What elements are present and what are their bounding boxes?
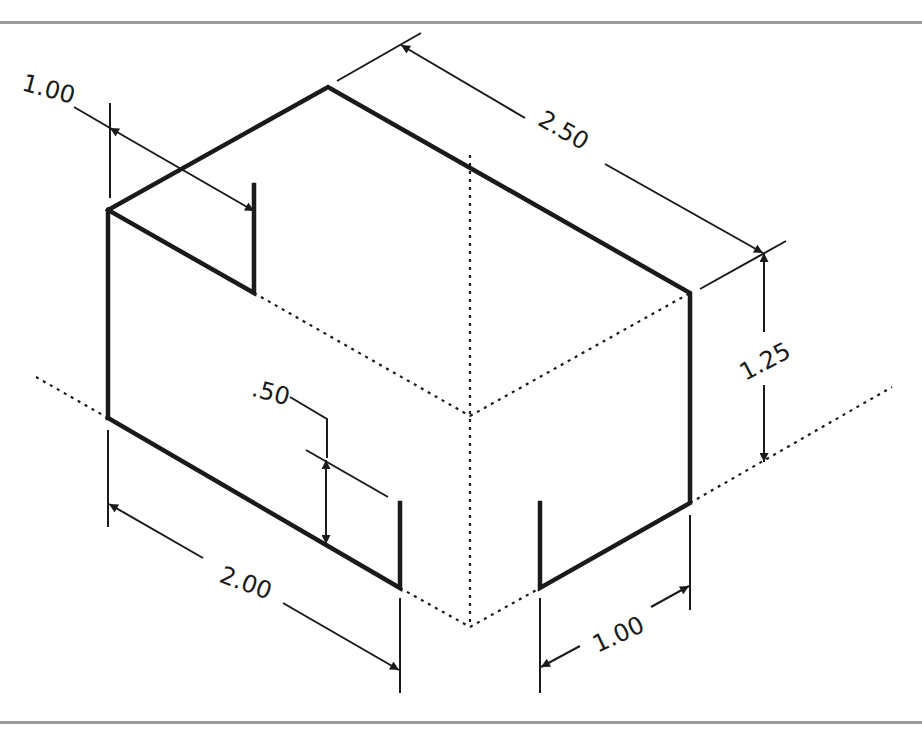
dimension-length: 2.50 <box>401 45 763 253</box>
dimension-label-notch-depth: 1.00 <box>19 69 78 110</box>
dimension-height: 1.25 <box>735 253 795 462</box>
dimension-notch-height: .50 <box>249 374 327 544</box>
dimension-label-height: 1.25 <box>735 337 795 387</box>
dimension-label-notch-height: .50 <box>249 374 293 411</box>
dimension-label-length: 2.50 <box>533 105 593 156</box>
dimension-width-left: 2.00 <box>109 504 399 670</box>
dimension-notch-depth: 1.00 <box>19 69 254 211</box>
object-outline <box>108 87 690 588</box>
dimension-width-right: 1.00 <box>541 586 689 667</box>
isometric-drawing: 1.00 2.50 1.25 .50 2.00 1.00 <box>0 0 922 730</box>
dimension-label-width-right: 1.00 <box>588 611 648 659</box>
extension-lines <box>108 33 786 693</box>
dimension-label-width-left: 2.00 <box>216 561 276 606</box>
